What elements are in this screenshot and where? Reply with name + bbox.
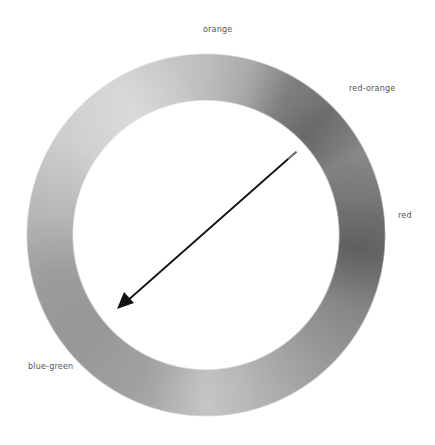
- label-red-orange: red-orange: [349, 84, 395, 93]
- color-wheel-diagram: orange red-orange red blue-green: [0, 0, 435, 445]
- label-orange: orange: [203, 25, 232, 34]
- label-blue-green: blue-green: [28, 362, 73, 371]
- label-red: red: [398, 211, 412, 220]
- watercolor-ring-texture: [26, 53, 386, 417]
